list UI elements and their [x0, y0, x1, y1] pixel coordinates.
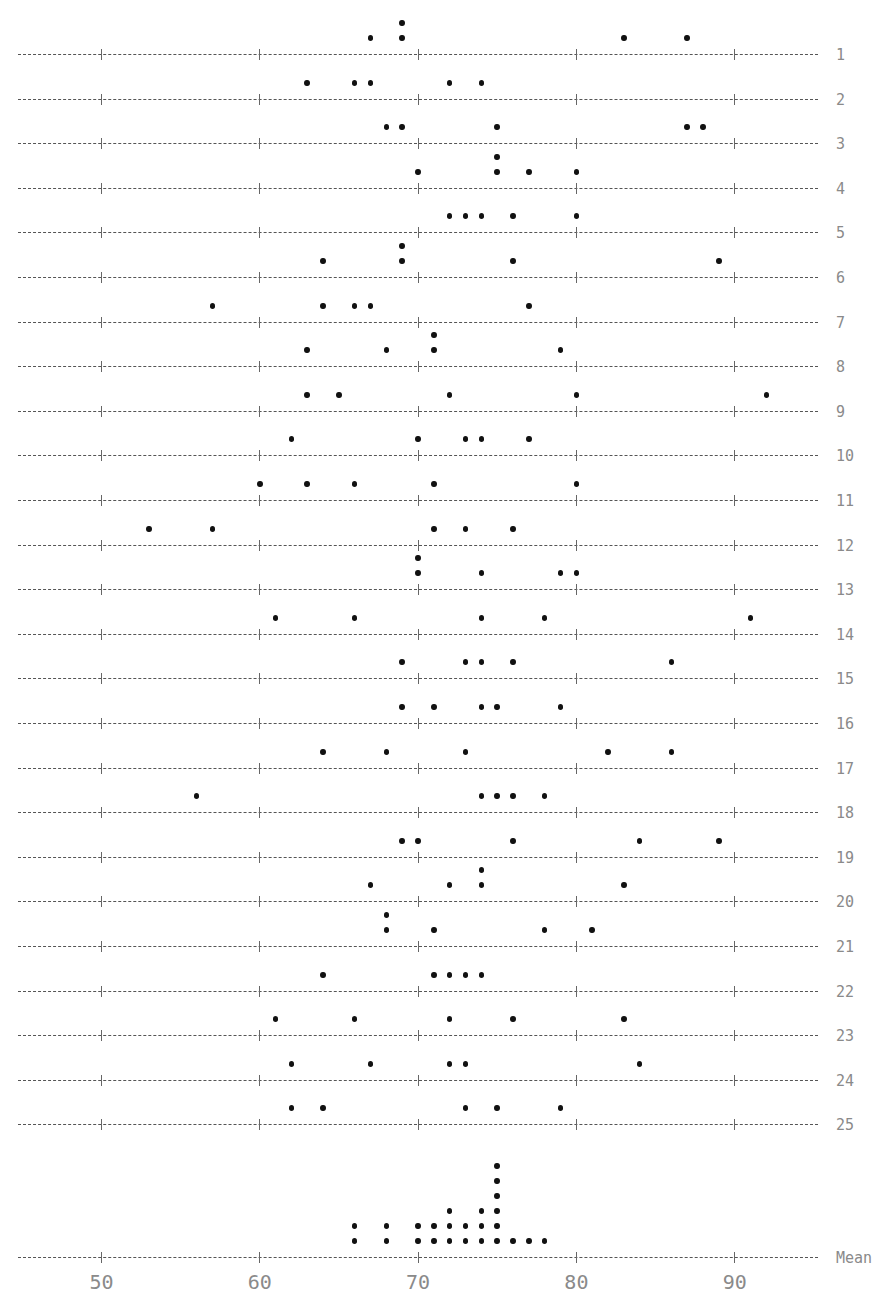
data-point [479, 213, 485, 219]
data-point [415, 1223, 421, 1229]
axis-tick [101, 540, 102, 551]
axis-tick [734, 540, 735, 551]
data-point [494, 1105, 500, 1111]
axis-tick [259, 227, 260, 238]
axis-tick [418, 450, 419, 461]
data-point [684, 124, 690, 130]
axis-tick [576, 227, 577, 238]
row-label: 6 [836, 269, 845, 287]
data-point [384, 1238, 390, 1244]
axis-tick [576, 450, 577, 461]
data-point [479, 704, 485, 710]
data-point [146, 526, 152, 532]
axis-tick [734, 763, 735, 774]
axis-tick [576, 1252, 577, 1263]
row-label: 11 [836, 492, 854, 510]
data-point [399, 704, 405, 710]
data-point [621, 882, 627, 888]
data-point [447, 1016, 453, 1022]
axis-tick [259, 317, 260, 328]
axis-tick [101, 584, 102, 595]
data-point [463, 972, 469, 978]
axis-tick [734, 1252, 735, 1263]
data-point [463, 526, 469, 532]
axis-tick [259, 94, 260, 105]
axis-tick [101, 227, 102, 238]
axis-tick [576, 941, 577, 952]
data-point [463, 1238, 469, 1244]
axis-tick [576, 1030, 577, 1041]
axis-tick [418, 986, 419, 997]
axis-tick [576, 272, 577, 283]
data-point [431, 332, 437, 338]
data-point [510, 258, 516, 264]
axis-tick [576, 94, 577, 105]
axis-tick [418, 183, 419, 194]
axis-tick [576, 361, 577, 372]
data-point [273, 1016, 279, 1022]
data-point [494, 169, 500, 175]
row-label: 5 [836, 224, 845, 242]
data-point [716, 838, 722, 844]
axis-tick [734, 361, 735, 372]
axis-tick [259, 629, 260, 640]
axis-tick [101, 183, 102, 194]
row-label: 3 [836, 135, 845, 153]
data-point [399, 258, 405, 264]
data-point [526, 169, 532, 175]
data-point [637, 838, 643, 844]
data-point [574, 169, 580, 175]
data-point [431, 1223, 437, 1229]
axis-tick [259, 1119, 260, 1130]
axis-tick [418, 584, 419, 595]
data-point [368, 1061, 374, 1067]
axis-tick [101, 896, 102, 907]
data-point [384, 912, 390, 918]
data-point [479, 80, 485, 86]
row-label: 23 [836, 1027, 854, 1045]
axis-tick [576, 896, 577, 907]
axis-tick [259, 272, 260, 283]
row-label: 15 [836, 670, 854, 688]
data-point [479, 793, 485, 799]
data-point [510, 526, 516, 532]
axis-tick [576, 1075, 577, 1086]
data-point [320, 972, 326, 978]
axis-tick [101, 673, 102, 684]
data-point [352, 80, 358, 86]
axis-tick [259, 138, 260, 149]
data-point [384, 124, 390, 130]
data-point [415, 838, 421, 844]
axis-tick [259, 852, 260, 863]
axis-tick [418, 896, 419, 907]
data-point [669, 749, 675, 755]
axis-tick [418, 807, 419, 818]
axis-tick [734, 673, 735, 684]
axis-tick [101, 138, 102, 149]
axis-tick [734, 138, 735, 149]
data-point [304, 80, 310, 86]
axis-tick [734, 986, 735, 997]
x-axis-tick-label: 60 [230, 1270, 290, 1294]
row-label: Mean [836, 1249, 872, 1267]
data-point [415, 169, 421, 175]
data-point [447, 1238, 453, 1244]
axis-tick [734, 49, 735, 60]
data-point [494, 1208, 500, 1214]
data-point [463, 1105, 469, 1111]
data-point [352, 303, 358, 309]
data-point [384, 1223, 390, 1229]
data-point [558, 1105, 564, 1111]
axis-tick [101, 317, 102, 328]
axis-tick [418, 1252, 419, 1263]
axis-tick [418, 94, 419, 105]
row-label: 19 [836, 849, 854, 867]
axis-tick [576, 807, 577, 818]
axis-tick [101, 852, 102, 863]
data-point [479, 1208, 485, 1214]
data-point [748, 615, 754, 621]
row-label: 14 [836, 626, 854, 644]
row-label: 1 [836, 46, 845, 64]
data-point [320, 258, 326, 264]
data-point [479, 615, 485, 621]
